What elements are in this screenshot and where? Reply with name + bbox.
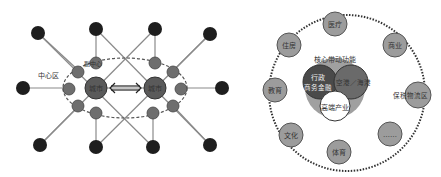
satellite-node: 保税物流区: [393, 82, 432, 108]
svg-text:商业: 商业: [388, 41, 402, 50]
right-function-diagram: 核心带动功能 行政 商务金融 空港／海港 高端产业 医疗 商业 保税物流区 ………: [263, 12, 431, 171]
sub-center-label: 副中心: [84, 60, 102, 68]
inner-node: [147, 107, 159, 119]
hub-left: 城市: [85, 77, 107, 99]
outer-node: [89, 140, 103, 154]
outer-node: [148, 22, 162, 36]
satellite-node: 文化: [279, 123, 303, 147]
svg-text:文化: 文化: [284, 131, 298, 140]
core-title: 核心带动功能: [314, 55, 356, 64]
inner-node: [63, 83, 75, 95]
core-label-admin: 行政: [311, 73, 325, 82]
satellite-node: 体育: [327, 140, 351, 164]
svg-text:体育: 体育: [332, 148, 346, 157]
connector-lines: [23, 29, 220, 147]
core-label-finance: 商务金融: [304, 83, 332, 92]
inner-node: [167, 100, 179, 112]
inner-node: [149, 57, 161, 69]
outer-node: [215, 81, 229, 95]
inner-node: [167, 66, 179, 78]
hub-glyph: 城市: [148, 84, 162, 93]
core-label-industry: 高端产业: [321, 103, 349, 112]
outer-node: [146, 140, 160, 154]
svg-text:保税物流区: 保税物流区: [393, 91, 428, 100]
core-label-ports: 空港／海港: [336, 78, 371, 87]
hub-right: 城市: [144, 77, 166, 99]
svg-text:住房: 住房: [282, 41, 296, 50]
inner-node: [72, 100, 84, 112]
svg-text:教育: 教育: [268, 86, 282, 95]
satellite-node: ……: [378, 122, 402, 146]
outer-node: [16, 81, 30, 95]
outer-node: [31, 26, 45, 40]
inner-node: [72, 66, 84, 78]
svg-text:……: ……: [383, 131, 397, 139]
inner-node: [90, 107, 102, 119]
outer-node: [89, 22, 103, 36]
outer-node: [203, 27, 217, 41]
left-network-diagram: 城市 城市 中心区 副中心: [16, 22, 229, 154]
inner-node: [175, 83, 187, 95]
center-zone-label: 中心区: [38, 71, 59, 80]
satellite-node: 医疗: [323, 12, 347, 36]
diagram-canvas: 城市 城市 中心区 副中心 核心带动功能 行政 商务金融 空港／海港 高端产业 …: [0, 0, 441, 177]
satellite-node: 商业: [383, 33, 407, 57]
satellite-node: 教育: [263, 78, 287, 102]
outer-node: [203, 138, 217, 152]
hub-glyph: 城市: [89, 84, 103, 93]
outer-node: [33, 138, 47, 152]
satellite-node: 住房: [277, 33, 301, 57]
svg-text:医疗: 医疗: [328, 20, 342, 29]
